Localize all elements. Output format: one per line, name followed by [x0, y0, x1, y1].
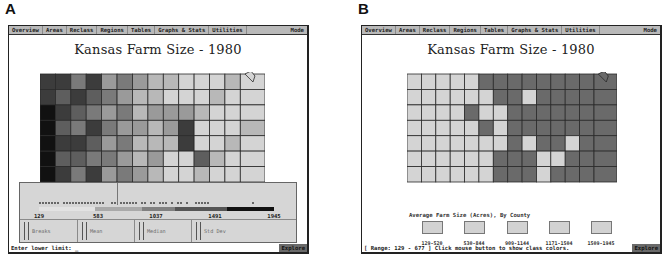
county[interactable]	[580, 74, 594, 89]
county[interactable]	[102, 74, 117, 89]
county[interactable]	[537, 151, 551, 166]
county[interactable]	[522, 89, 536, 104]
county[interactable]	[148, 74, 163, 89]
county[interactable]	[421, 136, 435, 151]
county[interactable]	[179, 167, 194, 182]
county[interactable]	[594, 120, 617, 135]
county[interactable]	[565, 89, 579, 104]
county[interactable]	[450, 151, 464, 166]
county[interactable]	[421, 120, 435, 135]
county[interactable]	[421, 74, 435, 89]
county[interactable]	[580, 105, 594, 120]
county[interactable]	[565, 120, 579, 135]
county[interactable]	[133, 151, 148, 166]
county[interactable]	[40, 105, 55, 120]
county[interactable]	[71, 74, 86, 89]
county[interactable]	[421, 167, 435, 182]
county[interactable]	[194, 74, 209, 89]
kansas-county-map-a[interactable]	[40, 72, 265, 184]
county[interactable]	[436, 167, 450, 182]
legend-swatch[interactable]	[549, 221, 570, 234]
county[interactable]	[580, 120, 594, 135]
county[interactable]	[479, 105, 493, 120]
county[interactable]	[225, 167, 240, 182]
county[interactable]	[493, 74, 507, 89]
county[interactable]	[551, 74, 565, 89]
county[interactable]	[465, 167, 479, 182]
legend-swatch[interactable]	[507, 221, 528, 234]
county[interactable]	[407, 136, 421, 151]
median-button[interactable]: Median	[135, 220, 192, 242]
county[interactable]	[436, 151, 450, 166]
county[interactable]	[436, 120, 450, 135]
county[interactable]	[594, 89, 617, 104]
county[interactable]	[55, 74, 70, 89]
county[interactable]	[493, 105, 507, 120]
county[interactable]	[102, 105, 117, 120]
class-segment[interactable]	[142, 207, 175, 211]
county[interactable]	[407, 167, 421, 182]
county[interactable]	[40, 89, 55, 104]
county[interactable]	[522, 167, 536, 182]
menu-reclass[interactable]: Reclass	[420, 26, 451, 34]
county[interactable]	[522, 105, 536, 120]
county[interactable]	[565, 136, 579, 151]
county[interactable]	[479, 120, 493, 135]
county[interactable]	[479, 167, 493, 182]
county[interactable]	[240, 120, 265, 135]
county[interactable]	[102, 136, 117, 151]
legend-class[interactable]: 129-520	[410, 221, 454, 246]
county[interactable]	[240, 89, 265, 104]
county[interactable]	[163, 120, 178, 135]
county[interactable]	[551, 136, 565, 151]
legend-swatch[interactable]	[464, 221, 485, 234]
county[interactable]	[117, 151, 132, 166]
county[interactable]	[71, 105, 86, 120]
county[interactable]	[55, 120, 70, 135]
county[interactable]	[436, 74, 450, 89]
menu-overview[interactable]: Overview	[9, 26, 43, 34]
county[interactable]	[240, 167, 265, 182]
county[interactable]	[40, 136, 55, 151]
menu-regions[interactable]: Regions	[450, 26, 481, 34]
county[interactable]	[148, 151, 163, 166]
county[interactable]	[194, 136, 209, 151]
county[interactable]	[210, 167, 225, 182]
county[interactable]	[407, 120, 421, 135]
county[interactable]	[225, 120, 240, 135]
county[interactable]	[163, 136, 178, 151]
county[interactable]	[102, 151, 117, 166]
county[interactable]	[55, 136, 70, 151]
county[interactable]	[421, 151, 435, 166]
county[interactable]	[450, 167, 464, 182]
county[interactable]	[508, 151, 522, 166]
county[interactable]	[450, 105, 464, 120]
kansas-county-map-b[interactable]	[407, 72, 617, 184]
county[interactable]	[508, 120, 522, 135]
menu-overview[interactable]: Overview	[362, 26, 396, 34]
county[interactable]	[537, 120, 551, 135]
county[interactable]	[551, 151, 565, 166]
county[interactable]	[240, 151, 265, 166]
kansas-map[interactable]	[40, 72, 265, 184]
county[interactable]	[55, 167, 70, 182]
county[interactable]	[240, 105, 265, 120]
county[interactable]	[565, 167, 579, 182]
county[interactable]	[163, 105, 178, 120]
class-segment[interactable]	[95, 207, 142, 211]
county[interactable]	[194, 151, 209, 166]
county[interactable]	[71, 151, 86, 166]
county[interactable]	[225, 89, 240, 104]
county[interactable]	[493, 89, 507, 104]
county[interactable]	[493, 136, 507, 151]
county[interactable]	[210, 74, 225, 89]
county[interactable]	[40, 120, 55, 135]
county[interactable]	[133, 167, 148, 182]
menu-graphs-stats[interactable]: Graphs & Stats	[508, 26, 562, 34]
county[interactable]	[179, 74, 194, 89]
county[interactable]	[71, 136, 86, 151]
county[interactable]	[86, 74, 101, 89]
county[interactable]	[133, 89, 148, 104]
county[interactable]	[71, 120, 86, 135]
county[interactable]	[163, 74, 178, 89]
